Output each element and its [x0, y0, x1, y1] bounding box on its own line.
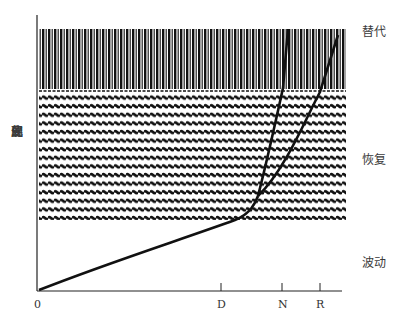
x-tick-0: 0 — [34, 298, 41, 311]
zone-label-fluctuation: 波动 — [362, 253, 386, 270]
x-tick-R: R — [316, 298, 324, 311]
recovery-zone — [39, 93, 346, 220]
replacement-zone — [39, 29, 346, 89]
disturbance-diagram — [0, 0, 402, 334]
x-tick-D: D — [217, 298, 226, 311]
y-label-char: 化 — [10, 124, 24, 141]
zone-label-replacement: 替代 — [362, 22, 386, 39]
zone-label-recovery: 恢复 — [362, 150, 386, 167]
x-tick-N: N — [278, 298, 288, 311]
